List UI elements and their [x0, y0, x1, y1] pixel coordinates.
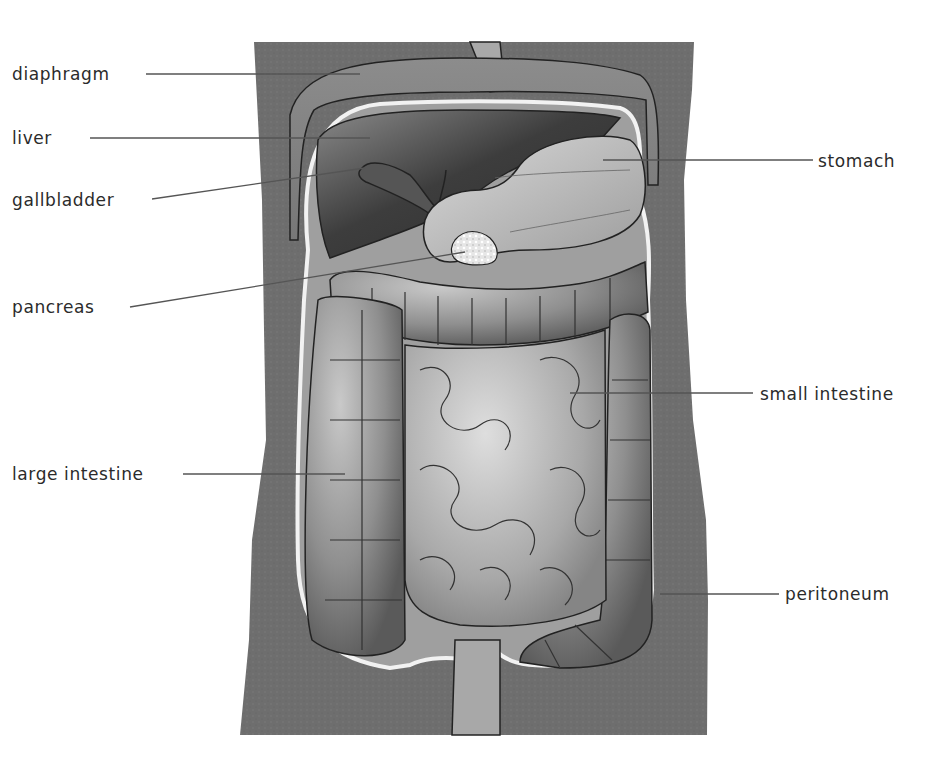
label-peritoneum: peritoneum — [785, 584, 890, 604]
label-liver: liver — [12, 128, 52, 148]
label-pancreas: pancreas — [12, 297, 94, 317]
label-large-intestine: large intestine — [12, 464, 144, 484]
label-small-intestine: small intestine — [760, 384, 894, 404]
label-gallbladder: gallbladder — [12, 190, 114, 210]
rectum — [452, 640, 500, 735]
ascending-colon — [305, 297, 405, 656]
label-stomach: stomach — [818, 151, 895, 171]
small-intestine — [405, 330, 606, 626]
label-diaphragm: diaphragm — [12, 64, 110, 84]
